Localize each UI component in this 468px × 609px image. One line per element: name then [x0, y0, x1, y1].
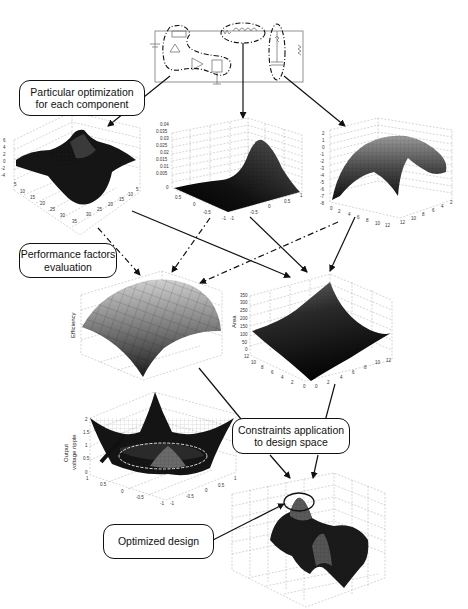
svg-text:4: 4: [281, 375, 284, 380]
plot3-y-ticks: 12 10 8 6 4 2: [400, 200, 453, 225]
svg-text:0.5: 0.5: [218, 483, 225, 488]
svg-text:-1: -1: [170, 501, 174, 506]
svg-text:20: 20: [40, 201, 46, 206]
plot6-z-ticks: 2 1.5 1 0.5 0: [83, 417, 90, 475]
svg-text:-0.5: -0.5: [186, 494, 194, 499]
plot-efficiency: Efficiency: [70, 271, 222, 380]
svg-text:8: 8: [422, 212, 425, 217]
svg-text:1: 1: [322, 138, 325, 143]
plot5-z-ticks: 350 300 250 200 150 100 50 0: [240, 293, 248, 352]
plot3-x-ticks: 0 2 4 6 8 10 12: [330, 206, 391, 228]
svg-text:2: 2: [338, 209, 341, 214]
svg-text:50: 50: [242, 340, 248, 345]
arrows-to-performance-solid: [132, 211, 355, 277]
svg-text:0.5: 0.5: [175, 195, 182, 200]
svg-text:10: 10: [375, 360, 381, 365]
svg-text:250: 250: [240, 308, 248, 313]
svg-text:5: 5: [136, 187, 139, 192]
svg-text:0: 0: [193, 202, 196, 207]
plot6-y-ticks: -1 -0.5 0 0.5 1: [170, 476, 237, 506]
efficiency-axis-label: Efficiency: [70, 312, 76, 338]
plot1-z-ticks: 6 4 2 0 -2 -4: [1, 138, 6, 178]
plot-component-2: 0.04 0.035 0.03 0.025 0.02 0.015 0.01 0.…: [156, 118, 303, 221]
svg-text:15: 15: [119, 197, 125, 202]
callout-performance-line2: evaluation: [21, 261, 116, 274]
svg-text:0.025: 0.025: [156, 143, 168, 148]
svg-text:1: 1: [86, 476, 89, 481]
svg-text:0: 0: [3, 159, 6, 164]
svg-text:0: 0: [303, 384, 306, 389]
plot-optimized-design: [232, 473, 385, 607]
svg-text:20: 20: [108, 202, 114, 207]
plot6-x-ticks: 1 0.5 0 -0.5 -1: [86, 476, 164, 506]
plot-component-1: 6 4 2 0 -2 -4 5 10 15 20 25 30 35 30 25 …: [1, 112, 140, 235]
svg-text:4: 4: [441, 204, 444, 209]
svg-text:350: 350: [240, 293, 248, 298]
plot2-z-ticks: 0.04 0.035 0.03 0.025 0.02 0.015 0.01 0.…: [156, 122, 169, 190]
callout-particular-optimization: Particular optimization for each compone…: [19, 80, 145, 116]
svg-text:0.5: 0.5: [83, 456, 90, 461]
svg-text:2: 2: [291, 380, 294, 385]
callout-particular-line2: for each component: [30, 98, 133, 111]
svg-text:-2: -2: [1, 166, 5, 171]
svg-text:-1: -1: [230, 216, 234, 221]
area-axis-label: Area: [231, 315, 237, 328]
svg-text:0: 0: [268, 204, 271, 209]
svg-text:-6: -6: [320, 187, 324, 192]
svg-text:150: 150: [240, 324, 248, 329]
svg-text:0: 0: [245, 347, 248, 352]
svg-text:4: 4: [340, 375, 343, 380]
svg-text:10: 10: [128, 192, 134, 197]
svg-text:4: 4: [3, 145, 6, 150]
svg-text:-8: -8: [320, 201, 324, 206]
plot3-z-ticks: 2 1 0 -1 -2 -3 -4 -5 -6 -7 -8: [320, 131, 325, 206]
svg-text:0.005: 0.005: [156, 171, 168, 176]
svg-text:0: 0: [85, 470, 88, 475]
arrows-to-performance-dashdot: [98, 218, 338, 283]
svg-text:0: 0: [330, 206, 333, 211]
svg-text:10: 10: [251, 360, 257, 365]
svg-text:2: 2: [327, 380, 330, 385]
svg-text:-0.5: -0.5: [203, 210, 211, 215]
svg-text:25: 25: [50, 207, 56, 212]
svg-text:0.5: 0.5: [100, 482, 107, 487]
callout-optimized-design: Optimized design: [103, 524, 214, 559]
svg-text:0.5: 0.5: [284, 199, 291, 204]
svg-text:0.02: 0.02: [160, 150, 169, 155]
svg-text:200: 200: [240, 316, 248, 321]
svg-text:-4: -4: [1, 173, 5, 178]
svg-text:-3: -3: [320, 166, 324, 171]
callout-performance-factors: Performance factors evaluation: [19, 243, 117, 278]
arrows-circuit-to-components: [108, 43, 345, 126]
ripple-axis-label-2: voltage ripple: [71, 434, 77, 470]
svg-text:1.5: 1.5: [83, 430, 90, 435]
callout-constraints-line2: to design space: [238, 436, 344, 449]
svg-text:25: 25: [97, 207, 103, 212]
callout-particular-line1: Particular optimization: [30, 86, 133, 99]
svg-text:1: 1: [234, 476, 237, 481]
svg-text:-5: -5: [320, 180, 324, 185]
svg-text:6: 6: [357, 215, 360, 220]
svg-text:6: 6: [352, 370, 355, 375]
svg-text:-7: -7: [320, 194, 324, 199]
svg-text:0.01: 0.01: [160, 164, 169, 169]
svg-text:-0.5: -0.5: [250, 210, 258, 215]
callout-constraints-application: Constraints application to design space: [232, 418, 350, 454]
svg-text:6: 6: [3, 138, 6, 143]
svg-text:8: 8: [364, 365, 367, 370]
svg-text:-1: -1: [320, 152, 324, 157]
svg-text:0: 0: [315, 384, 318, 389]
svg-text:8: 8: [366, 218, 369, 223]
svg-text:300: 300: [240, 300, 248, 305]
svg-text:0: 0: [322, 145, 325, 150]
svg-text:2: 2: [450, 200, 453, 205]
svg-text:30: 30: [86, 212, 92, 217]
svg-text:0: 0: [166, 185, 169, 190]
plot-area: Area 350 300 250 200 150 100 50 0 12 10 …: [231, 274, 392, 389]
svg-text:2: 2: [322, 131, 325, 136]
circuit-schematic: [150, 28, 303, 84]
svg-text:12: 12: [244, 354, 250, 359]
callout-performance-line1: Performance factors: [21, 248, 116, 261]
svg-text:-2: -2: [320, 159, 324, 164]
svg-text:0.03: 0.03: [160, 136, 169, 141]
